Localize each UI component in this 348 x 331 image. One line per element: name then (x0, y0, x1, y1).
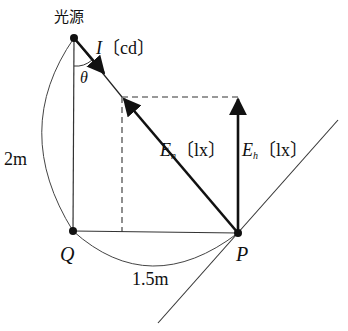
point-p-dot (234, 229, 242, 237)
intensity-label: I〔cd〕 (96, 39, 155, 57)
normal-illuminance-arrow (124, 99, 238, 233)
point-q-dot (69, 227, 77, 235)
source-label: 光源 (54, 10, 84, 25)
illuminance-diagram (0, 0, 348, 331)
point-q-label: Q (60, 244, 74, 264)
base-line (73, 231, 238, 233)
normal-illuminance-label: En〔lx〕 (160, 141, 226, 161)
point-p-label: P (236, 244, 248, 264)
vertical-line (73, 38, 74, 231)
horizontal-illuminance-label: Eh〔lx〕 (242, 141, 308, 161)
height-arc (42, 38, 74, 231)
horizontal-unit: 〔lx〕 (258, 140, 308, 160)
height-label: 2m (4, 150, 27, 168)
normal-symbol: E (160, 140, 171, 160)
theta-arc (74, 60, 92, 66)
theta-label: θ (80, 70, 88, 86)
distance-label: 1.5m (132, 270, 169, 288)
normal-unit: 〔lx〕 (176, 140, 226, 160)
source-point (70, 34, 78, 42)
intensity-unit: 〔cd〕 (102, 38, 155, 58)
horizontal-symbol: E (242, 140, 253, 160)
